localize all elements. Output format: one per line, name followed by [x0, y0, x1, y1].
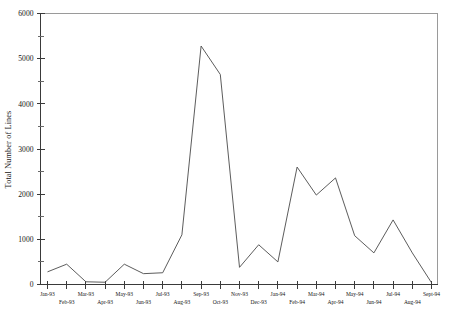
- y-tick-label: 0: [30, 280, 34, 289]
- x-tick-label: Dec-93: [251, 299, 267, 305]
- x-tick-label: May-93: [116, 291, 134, 297]
- x-tick-label: Mar-93: [78, 291, 95, 297]
- y-tick-label: 2000: [18, 190, 33, 199]
- y-tick-label: 1000: [18, 235, 33, 244]
- series-line-total-number-of-lines: [48, 46, 432, 283]
- x-tick-label: Mar-94: [308, 291, 325, 297]
- plot-frame: [41, 14, 438, 285]
- x-tick-label: Jan-94: [271, 291, 286, 297]
- x-tick-label: Jan-93: [40, 291, 55, 297]
- plot-area: 0100020003000400050006000 Jan-93Feb-93Ma…: [0, 0, 455, 317]
- x-tick-label: Oct-93: [213, 299, 229, 305]
- data-series-line: [48, 46, 432, 283]
- x-tick-label: Aug-93: [173, 299, 190, 305]
- line-chart: Total Number of Lines 010002000300040005…: [0, 0, 455, 317]
- x-tick-label: Nov-93: [231, 291, 248, 297]
- x-tick-label: May-94: [346, 291, 364, 297]
- x-tick-label: Jul-94: [386, 291, 400, 297]
- x-tick-label: Aug-94: [404, 299, 421, 305]
- y-tick-labels: 0100020003000400050006000: [18, 9, 33, 289]
- y-tick-label: 3000: [18, 145, 33, 154]
- x-tick-label: Feb-93: [59, 299, 75, 305]
- y-tick-label: 4000: [18, 100, 33, 109]
- x-tick-labels: Jan-93Feb-93Mar-93Apr-93May-93Jun-93Jul-…: [40, 291, 440, 305]
- x-tick-label: Apr-93: [97, 299, 113, 305]
- x-tick-label: Jun-94: [366, 299, 381, 305]
- x-tick-label: Apr-94: [328, 299, 344, 305]
- x-tick-label: Feb-94: [289, 299, 305, 305]
- x-tick-label: Jun-93: [136, 299, 151, 305]
- x-tick-label: Sep-93: [193, 291, 209, 297]
- x-tick-label: Jul-93: [156, 291, 170, 297]
- y-tick-label: 6000: [18, 9, 33, 18]
- x-tick-label: Sept-94: [423, 291, 440, 297]
- y-tick-label: 5000: [18, 54, 33, 63]
